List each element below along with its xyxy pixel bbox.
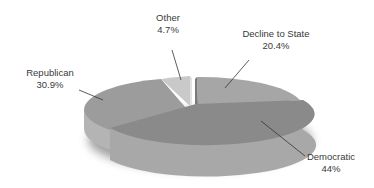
label-decline-to-state: Decline to State 20.4% bbox=[233, 28, 319, 52]
label-democratic: Democratic 44% bbox=[301, 151, 361, 175]
label-republican: Republican 30.9% bbox=[22, 67, 78, 91]
leader-line-other bbox=[172, 50, 181, 80]
label-other: Other 4.7% bbox=[150, 12, 186, 36]
